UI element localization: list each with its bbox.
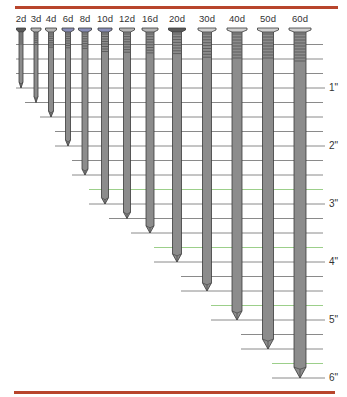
nail-6d: [62, 28, 74, 146]
grid-lines: [16, 45, 325, 379]
nail-label-6d: 6d: [63, 13, 74, 24]
nail-label-8d: 8d: [80, 13, 91, 24]
nail-label-10d: 10d: [97, 13, 113, 24]
ruler-label-1in: 1": [329, 82, 338, 93]
ruler-label-4in: 4": [329, 256, 338, 267]
nail-2d: [17, 28, 26, 88]
nail-label-30d: 30d: [199, 13, 215, 24]
nail-30d: [198, 28, 216, 291]
nail-label-2d: 2d: [16, 13, 27, 24]
nail-60d: [289, 28, 311, 378]
nail-8d: [79, 28, 92, 175]
ruler-label-2in: 2": [329, 140, 338, 151]
nail-3d: [31, 28, 41, 103]
nail-10d: [98, 28, 112, 204]
nail-label-4d: 4d: [46, 13, 57, 24]
nail-label-3d: 3d: [31, 13, 42, 24]
nail-label-16d: 16d: [142, 13, 158, 24]
nail-20d: [169, 28, 186, 262]
ruler-label-5in: 5": [329, 314, 338, 325]
nail-label-40d: 40d: [229, 13, 245, 24]
nail-4d: [46, 28, 57, 117]
nail-label-50d: 50d: [260, 13, 276, 24]
ruler-label-6in: 6": [329, 372, 338, 383]
nail-label-12d: 12d: [119, 13, 135, 24]
nail-chart: [0, 0, 347, 397]
nail-50d: [258, 28, 279, 349]
ruler-label-3in: 3": [329, 198, 338, 209]
nail-label-20d: 20d: [169, 13, 185, 24]
nail-label-60d: 60d: [292, 13, 308, 24]
